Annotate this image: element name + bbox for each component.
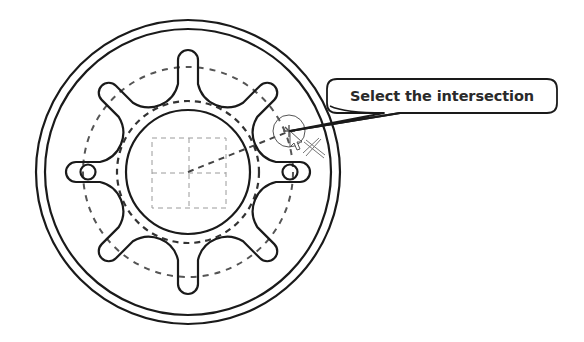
- cad-drawing-canvas[interactable]: [0, 0, 584, 342]
- callout-instruction-text: Select the intersection: [327, 79, 557, 113]
- right-spoke-hole[interactable]: [283, 165, 298, 180]
- sketch-origin-grid: [152, 138, 226, 208]
- intersection-select-cursor-icon: [290, 131, 325, 158]
